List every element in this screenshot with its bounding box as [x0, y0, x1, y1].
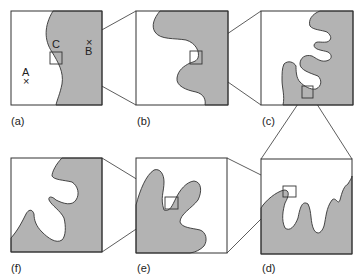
- point-b-label: B: [85, 45, 92, 57]
- panel-label-f: (f): [11, 262, 21, 274]
- panel-label-a: (a): [11, 115, 24, 127]
- panel-d: [261, 159, 352, 254]
- point-a-marker: ×: [23, 75, 29, 87]
- panel-a: C × B A ×: [11, 11, 102, 105]
- panel-label-e: (e): [137, 262, 150, 274]
- point-c-label: C: [52, 38, 60, 50]
- panel-f: [11, 158, 102, 252]
- panel-b: [136, 11, 228, 105]
- panel-label-c: (c): [262, 115, 275, 127]
- coastline-zoom-diagram: C × B A × (a) (b) (c) (d: [0, 0, 362, 279]
- panel-e: [136, 158, 227, 253]
- panel-label-d: (d): [262, 262, 275, 274]
- panel-c: [261, 11, 353, 105]
- panel-label-b: (b): [137, 115, 150, 127]
